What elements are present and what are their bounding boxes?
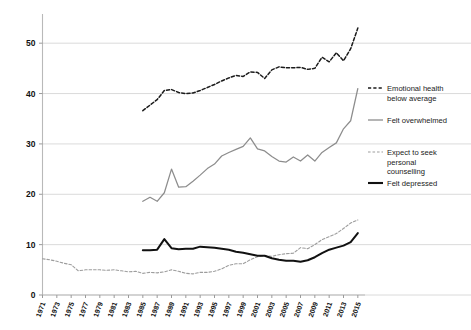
series-line-emotional	[143, 28, 358, 111]
x-tick-label: 1991	[178, 301, 190, 318]
legend-label: below average	[387, 94, 436, 103]
y-tick-label: 40	[26, 89, 36, 99]
y-tick-label: 10	[26, 240, 36, 250]
series-line-overwhelmed	[143, 89, 358, 202]
x-tick-label: 2009	[307, 301, 319, 318]
legend-label: Expect to seek	[387, 148, 437, 157]
legend-label: counselling	[387, 167, 425, 176]
y-tick-label: 20	[26, 189, 36, 199]
x-tick-label: 1989	[164, 301, 176, 318]
chart-container: 01020304050 1971197319751977197919811983…	[0, 0, 471, 330]
x-tick-label: 1983	[121, 301, 133, 318]
y-tick-label: 0	[31, 290, 36, 300]
legend-label: Emotional health	[387, 84, 444, 93]
axes-group	[43, 14, 366, 295]
x-tick-label: 1973	[49, 301, 61, 318]
line-chart: 01020304050 1971197319751977197919811983…	[0, 0, 471, 330]
x-tick-label: 1993	[192, 301, 204, 318]
x-tick-label: 2013	[336, 301, 348, 318]
x-tick-label: 1999	[235, 301, 247, 318]
x-axis-tick-labels: 1971197319751977197919811983198519871989…	[35, 295, 362, 318]
x-tick-label: 1971	[35, 301, 47, 318]
x-tick-label: 1981	[106, 301, 118, 318]
x-tick-label: 1997	[221, 301, 233, 318]
x-tick-label: 2005	[278, 301, 290, 318]
chart-legend: Emotional healthbelow averageFelt overwh…	[368, 84, 447, 188]
x-tick-label: 2003	[264, 301, 276, 318]
x-tick-label: 1979	[92, 301, 104, 318]
legend-label: personal	[387, 158, 416, 167]
x-tick-label: 2015	[350, 301, 362, 318]
y-axis-tick-labels: 01020304050	[26, 38, 42, 300]
x-tick-label: 2001	[250, 301, 262, 318]
data-series-group	[43, 28, 358, 274]
y-tick-label: 50	[26, 38, 36, 48]
x-tick-label: 1985	[135, 301, 147, 318]
legend-label: Felt depressed	[387, 179, 437, 188]
x-tick-label: 2011	[322, 301, 334, 318]
x-tick-label: 1977	[78, 301, 90, 318]
x-tick-label: 2007	[293, 301, 305, 318]
x-tick-label: 1987	[149, 301, 161, 318]
series-line-depressed	[143, 233, 358, 262]
y-tick-label: 30	[26, 139, 36, 149]
x-tick-label: 1975	[63, 301, 75, 318]
x-tick-label: 1995	[207, 301, 219, 318]
legend-label: Felt overwhelmed	[387, 116, 447, 125]
